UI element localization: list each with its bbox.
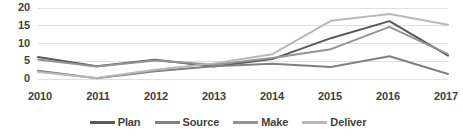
chart-legend: Plan Source Make Deliver — [0, 112, 456, 132]
y-tick-label: 5 — [4, 55, 30, 66]
legend-item-source[interactable]: Source — [155, 116, 220, 128]
gridlines — [38, 8, 448, 79]
x-tick-label: 2014 — [252, 90, 292, 102]
series-lines — [38, 14, 448, 78]
legend-item-label: Deliver — [330, 116, 366, 128]
plot-area — [0, 0, 456, 90]
legend-item-label: Make — [261, 116, 288, 128]
x-tick-label: 2013 — [194, 90, 234, 102]
legend-item-deliver[interactable]: Deliver — [302, 116, 366, 128]
legend-item-plan[interactable]: Plan — [90, 116, 141, 128]
legend-swatch-icon — [155, 121, 180, 124]
y-tick-label: 20 — [4, 2, 30, 13]
legend-item-label: Plan — [118, 116, 141, 128]
y-axis-tick-labels: 20 15 10 5 0 — [0, 0, 30, 90]
x-tick-label: 2012 — [136, 90, 176, 102]
x-tick-label: 2011 — [78, 90, 118, 102]
legend-item-make[interactable]: Make — [233, 116, 288, 128]
y-tick-label: 0 — [4, 73, 30, 84]
y-tick-label: 15 — [4, 20, 30, 31]
series-line-make — [38, 27, 448, 67]
x-tick-label: 2017 — [426, 90, 463, 102]
legend-swatch-icon — [90, 121, 115, 124]
legend-swatch-icon — [302, 121, 327, 124]
x-axis-tick-labels: 2010 2011 2012 2013 2014 2015 2016 2017 — [38, 90, 448, 108]
x-tick-label: 2010 — [20, 90, 60, 102]
legend-item-label: Source — [183, 116, 220, 128]
x-tick-label: 2015 — [310, 90, 350, 102]
x-tick-label: 2016 — [368, 90, 408, 102]
y-tick-label: 10 — [4, 38, 30, 49]
series-line-deliver — [38, 14, 448, 78]
legend-swatch-icon — [233, 121, 258, 124]
plot-svg — [0, 0, 456, 90]
